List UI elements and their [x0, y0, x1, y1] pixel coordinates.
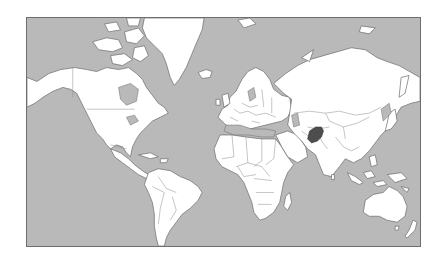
- sri-lanka: [331, 175, 334, 180]
- map-canvas: [27, 18, 420, 246]
- tasmania: [395, 226, 399, 230]
- world-map: [26, 17, 421, 247]
